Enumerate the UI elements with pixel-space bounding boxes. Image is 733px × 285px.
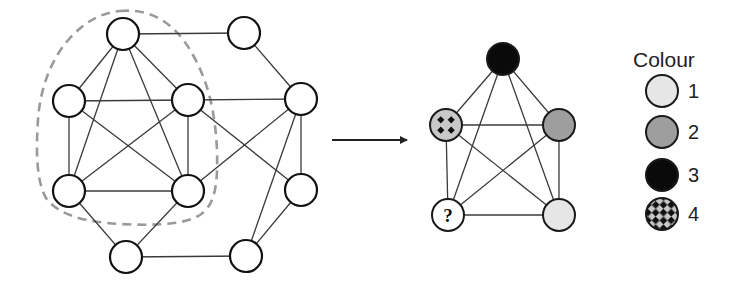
legend-label: 4 — [688, 203, 699, 225]
graph-node-A — [107, 18, 139, 50]
edge-A-B — [123, 33, 244, 34]
right-graph-nodes: ? — [430, 43, 575, 231]
graph-colouring-diagram: ? Colour 1234 — [0, 0, 733, 285]
graph-node-C — [53, 85, 85, 117]
unknown-colour-label: ? — [443, 205, 453, 226]
colour-swatch-icon — [646, 159, 678, 191]
legend-label: 3 — [688, 164, 699, 186]
coloured-node-BR — [543, 199, 575, 231]
graph-node-H — [285, 174, 317, 206]
uncoloured-node-BL: ? — [432, 199, 464, 231]
edge-C-D — [69, 100, 188, 101]
colour-swatch-icon — [646, 75, 678, 107]
legend-label: 1 — [688, 80, 699, 102]
legend-item-2: 2 — [646, 116, 699, 148]
graph-node-I — [110, 241, 142, 273]
legend-title: Colour — [633, 48, 695, 71]
graph-node-B — [228, 17, 260, 49]
edge-I-J — [126, 256, 246, 257]
left-graph-nodes — [53, 17, 317, 273]
checker-swatch-icon — [646, 198, 678, 230]
graph-node-F — [53, 175, 85, 207]
graph-node-J — [230, 240, 262, 272]
legend-label: 2 — [688, 121, 699, 143]
left-graph-edges — [69, 33, 301, 257]
legend-item-3: 3 — [646, 159, 699, 191]
colour-legend: Colour 1234 — [633, 48, 699, 230]
coloured-node-L — [430, 109, 462, 141]
coloured-node-R — [543, 109, 575, 141]
graph-node-D — [172, 84, 204, 116]
graph-node-E — [285, 83, 317, 115]
legend-item-1: 1 — [646, 75, 699, 107]
graph-node-G — [172, 175, 204, 207]
coloured-node-T — [487, 43, 519, 75]
right-graph-edges — [446, 59, 559, 215]
colour-swatch-icon — [646, 116, 678, 148]
legend-item-4: 4 — [646, 198, 699, 230]
